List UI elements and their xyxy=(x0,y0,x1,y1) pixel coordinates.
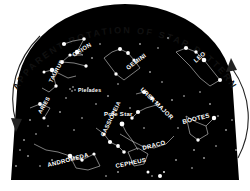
label-pleiades: Pleiades xyxy=(78,87,101,93)
star-chart-diagram: APPARENT ROTATION OF STAR PATTERN xyxy=(0,0,250,191)
label-pole-star: Pole Star xyxy=(104,111,133,117)
star-dome-svg: APPARENT ROTATION OF STAR PATTERN xyxy=(0,0,250,191)
